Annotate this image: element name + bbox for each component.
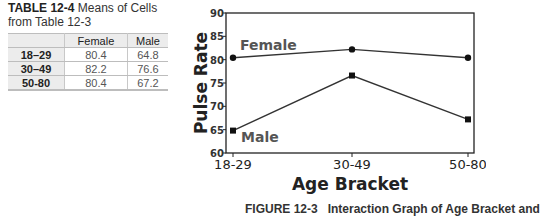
data-point <box>230 128 236 134</box>
y-tick-label: 85 <box>210 31 224 42</box>
x-axis-label: Age Bracket <box>292 174 408 194</box>
data-point <box>465 116 471 122</box>
data-point <box>230 55 236 61</box>
figure-caption-text: Interaction Graph of Age Bracket and <box>328 202 540 216</box>
y-axis-ticks: 60657075808590 <box>210 8 226 159</box>
legend-label-female: Female <box>240 37 297 53</box>
figure-caption: FIGURE 12-3Interaction Graph of Age Brac… <box>245 202 540 216</box>
interaction-chart: 60657075808590 18-2930-4950-80 Pulse Rat… <box>0 0 486 200</box>
y-tick-label: 75 <box>210 78 224 89</box>
x-tick-label: 30-49 <box>333 157 371 172</box>
y-axis-label: Pulse Rate <box>191 32 211 134</box>
legend-label-male: Male <box>241 129 279 145</box>
y-tick-label: 80 <box>210 55 224 66</box>
data-point <box>349 73 355 79</box>
x-tick-label: 18-29 <box>214 157 252 172</box>
x-tick-label: 50-80 <box>449 157 486 172</box>
data-point <box>465 55 471 61</box>
x-axis-ticks: 18-2930-4950-80 <box>214 153 486 172</box>
data-point <box>349 46 355 52</box>
series-lines <box>230 46 471 133</box>
y-tick-label: 65 <box>210 125 224 136</box>
y-tick-label: 70 <box>210 101 224 112</box>
figure-number: FIGURE 12-3 <box>245 202 318 216</box>
y-tick-label: 90 <box>210 8 224 19</box>
series-line-male <box>233 76 468 131</box>
